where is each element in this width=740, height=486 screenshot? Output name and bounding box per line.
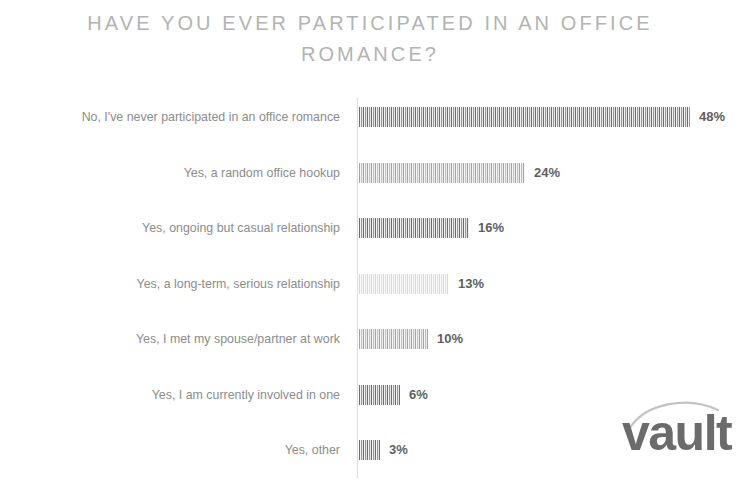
bar bbox=[359, 440, 380, 460]
bar-value-label: 16% bbox=[478, 215, 504, 241]
bar-track bbox=[359, 104, 690, 130]
bar-value-label: 3% bbox=[389, 437, 408, 463]
bar-category-label: No, I've never participated in an office… bbox=[0, 104, 340, 130]
bar-row: Yes, a random office hookup24% bbox=[0, 160, 740, 216]
bar-category-label: Yes, other bbox=[0, 437, 340, 463]
bar-category-label: Yes, a long-term, serious relationship bbox=[0, 271, 340, 297]
bar-track bbox=[359, 160, 525, 186]
bar-row: Yes, a long-term, serious relationship13… bbox=[0, 271, 740, 327]
bar-track bbox=[359, 437, 380, 463]
vault-logo: vault bbox=[622, 398, 738, 460]
bar-value-label: 24% bbox=[534, 160, 560, 186]
vault-wordmark: vault bbox=[622, 405, 733, 460]
bar-category-label: Yes, a random office hookup bbox=[0, 160, 340, 186]
bar-track bbox=[359, 326, 428, 352]
bar-track bbox=[359, 382, 400, 408]
bar-row: Yes, ongoing but casual relationship16% bbox=[0, 215, 740, 271]
bar-category-label: Yes, I am currently involved in one bbox=[0, 382, 340, 408]
bar bbox=[359, 107, 690, 127]
bar-value-label: 48% bbox=[699, 104, 725, 130]
bar-category-label: Yes, ongoing but casual relationship bbox=[0, 215, 340, 241]
page-title: HAVE YOU EVER PARTICIPATED IN AN OFFICE … bbox=[60, 8, 680, 70]
bar bbox=[359, 329, 428, 349]
bar bbox=[359, 274, 449, 294]
bar-category-label: Yes, I met my spouse/partner at work bbox=[0, 326, 340, 352]
bar-row: Yes, I met my spouse/partner at work10% bbox=[0, 326, 740, 382]
bar-track bbox=[359, 215, 469, 241]
bar-value-label: 13% bbox=[458, 271, 484, 297]
bar-value-label: 6% bbox=[409, 382, 428, 408]
bar-track bbox=[359, 271, 449, 297]
bar-row: No, I've never participated in an office… bbox=[0, 104, 740, 160]
bar-value-label: 10% bbox=[437, 326, 463, 352]
bar bbox=[359, 385, 400, 405]
bar bbox=[359, 163, 525, 183]
bar bbox=[359, 218, 469, 238]
